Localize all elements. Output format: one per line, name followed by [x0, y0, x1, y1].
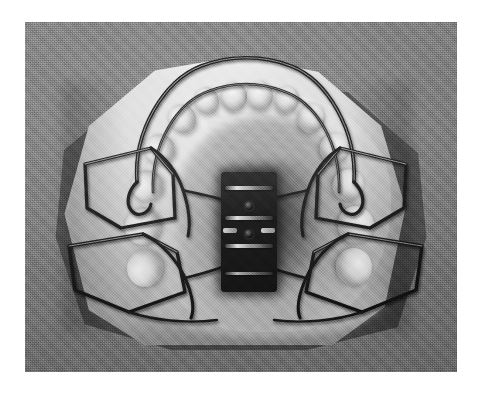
jackscrew-guide-stud-right: [261, 228, 275, 233]
page-root: [0, 0, 483, 393]
expansion-jackscrew: [221, 172, 277, 292]
jackscrew-keyhole-1: [245, 202, 253, 210]
tooth-ul-central: [247, 81, 273, 111]
jackscrew-guide-stud-left: [223, 228, 237, 233]
jackscrew-keyhole-2: [245, 230, 253, 238]
jackscrew-bar-4: [225, 272, 273, 275]
jackscrew-bar-2: [225, 216, 273, 220]
jackscrew-bar-3: [225, 244, 273, 248]
appliance-photograph: [25, 22, 457, 372]
tooth-ur-central: [221, 82, 247, 112]
jackscrew-bar-1: [225, 186, 273, 190]
